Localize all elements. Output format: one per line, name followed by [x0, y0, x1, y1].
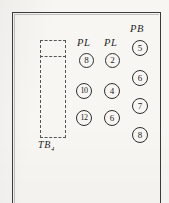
terminal-circle[interactable]: 12 [76, 110, 92, 126]
terminal-circle[interactable]: 6 [132, 70, 148, 86]
terminal-block-label-text: TB [38, 139, 51, 150]
terminal-circle[interactable]: 8 [132, 127, 148, 143]
terminal-block-label: TB4 [38, 140, 54, 153]
column-header-pb: PB [130, 24, 144, 35]
terminal-circle[interactable]: 6 [104, 110, 120, 126]
terminal-block-label-subscript: 4 [51, 145, 54, 152]
terminal-circle[interactable]: 5 [132, 40, 148, 56]
terminal-circle[interactable]: 8 [79, 53, 94, 68]
column-header-pl-right: PL [104, 38, 117, 49]
terminal-block-outline [40, 40, 66, 138]
terminal-circle[interactable]: 10 [76, 83, 92, 99]
terminal-block-divider [40, 56, 66, 57]
terminal-circle[interactable]: 7 [132, 98, 148, 114]
figure-canvas: TB4 PL PL PB 8 10 12 2 4 6 5 6 7 8 [0, 0, 169, 203]
terminal-circle[interactable]: 2 [105, 53, 120, 68]
column-header-pl-left: PL [77, 38, 90, 49]
terminal-circle[interactable]: 4 [104, 83, 120, 99]
